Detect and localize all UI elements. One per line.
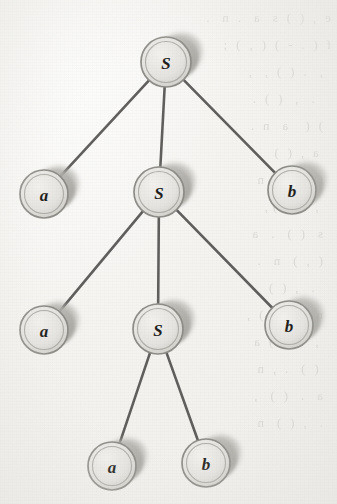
node-label: b — [285, 317, 294, 336]
tree-node-s: S — [141, 25, 210, 87]
tree-edge — [175, 208, 274, 309]
tree-node-s: S — [134, 155, 203, 217]
tree-nodes: SaSbaSbab — [20, 25, 334, 490]
tree-node-a: a — [20, 294, 86, 354]
tree-edge — [158, 215, 159, 306]
tree-edge — [182, 78, 276, 174]
tree-edge — [160, 85, 165, 169]
tree-edge — [119, 351, 151, 445]
node-label: a — [40, 322, 49, 341]
parse-tree-figure: SaSbaSbab — [0, 0, 337, 504]
node-label: a — [40, 186, 49, 205]
node-label: S — [153, 321, 162, 340]
tree-node-b: b — [182, 427, 248, 487]
tree-node-b: b — [268, 154, 334, 214]
tree-edge — [59, 79, 150, 178]
tree-node-b: b — [265, 289, 331, 349]
node-label: S — [154, 184, 163, 203]
tree-node-a: a — [20, 158, 86, 218]
tree-node-s: S — [133, 292, 202, 354]
tree-edge — [166, 351, 199, 443]
node-label: b — [288, 182, 297, 201]
tree-edge — [58, 210, 144, 313]
tree-edges — [58, 78, 276, 445]
node-label: a — [108, 458, 117, 477]
node-label: S — [161, 54, 170, 73]
node-label: b — [202, 455, 211, 474]
scanned-page: e , ( ) s a . n . f ( . - ) ( , ) ; , . … — [0, 0, 337, 504]
tree-node-a: a — [88, 430, 154, 490]
